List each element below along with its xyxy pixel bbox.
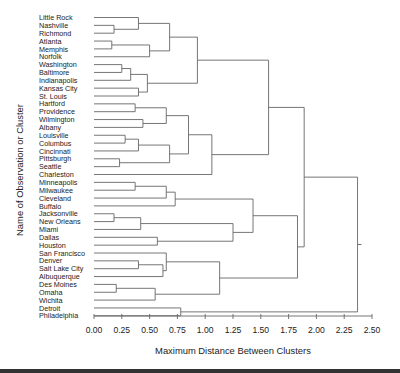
dendrogram-links <box>94 18 362 316</box>
x-tick-label: 0.75 <box>169 325 186 335</box>
x-axis-title: Maximum Distance Between Clusters <box>155 345 311 356</box>
bottom-border <box>0 369 400 373</box>
y-axis-title: Name of Observation or Cluster <box>14 104 25 236</box>
x-tick-label: 2.25 <box>336 325 353 335</box>
leaf-label: Philadelphia <box>39 311 78 320</box>
x-tick-label: 0.25 <box>113 325 130 335</box>
x-axis: 0.000.250.500.751.001.251.501.752.002.25… <box>86 314 381 335</box>
x-tick-label: 0.00 <box>86 325 103 335</box>
x-tick-label: 2.50 <box>364 325 381 335</box>
x-tick-label: 1.50 <box>252 325 269 335</box>
x-tick-label: 1.00 <box>197 325 214 335</box>
x-tick-label: 1.25 <box>225 325 242 335</box>
x-tick-label: 0.50 <box>141 325 158 335</box>
leaf-labels: Little RockNashvilleRichmondAtlantaMemph… <box>39 13 85 320</box>
x-tick-label: 1.75 <box>280 325 297 335</box>
dendrogram-chart: Little RockNashvilleRichmondAtlantaMemph… <box>0 0 400 373</box>
x-tick-label: 2.00 <box>308 325 325 335</box>
